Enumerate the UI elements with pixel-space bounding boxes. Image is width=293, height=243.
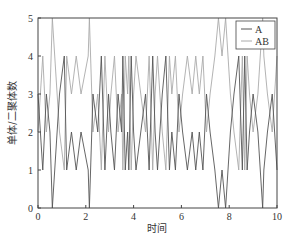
y-axis-label: 单体/二聚体数 (6, 81, 18, 144)
series-line-a (38, 56, 277, 208)
x-tick-label: 0 (36, 211, 41, 222)
x-tick-label: 6 (179, 211, 184, 222)
legend: A AB (236, 21, 275, 49)
legend-label-ab: AB (255, 36, 269, 47)
x-axis-label: 时间 (147, 222, 167, 234)
line-chart: 0246810012345 时间 单体/二聚体数 A AB (0, 0, 293, 243)
x-tick-label: 2 (83, 211, 88, 222)
y-tick-label: 5 (28, 13, 33, 24)
y-tick-label: 4 (28, 51, 33, 62)
y-tick-label: 3 (28, 89, 33, 100)
y-tick-label: 2 (28, 127, 33, 138)
x-tick-label: 10 (272, 211, 282, 222)
y-tick-label: 0 (28, 203, 33, 214)
x-tick-label: 4 (131, 211, 136, 222)
x-tick-label: 8 (227, 211, 232, 222)
legend-label-a: A (255, 24, 263, 35)
y-tick-label: 1 (28, 165, 33, 176)
